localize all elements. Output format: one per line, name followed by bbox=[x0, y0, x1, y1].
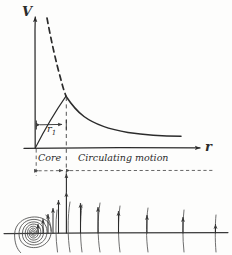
streamline bbox=[68, 202, 70, 252]
core-region-label: Core bbox=[38, 152, 61, 163]
forced-vortex-rising-line bbox=[35, 96, 66, 148]
streamline bbox=[56, 210, 58, 252]
rankine-vortex-figure: V r r1 Core Circulating motion bbox=[0, 0, 232, 255]
free-vortex-decay-curve bbox=[66, 96, 181, 136]
free-vortex-dashed-curve bbox=[47, 18, 66, 96]
core-radius-label: r1 bbox=[47, 123, 56, 137]
y-axis-label: V bbox=[22, 4, 32, 19]
x-axis bbox=[24, 148, 200, 149]
x-axis-label: r bbox=[205, 139, 212, 154]
streamline-group bbox=[56, 202, 216, 252]
circulating-motion-region-label: Circulating motion bbox=[78, 152, 169, 163]
velocity-vector-group bbox=[38, 193, 216, 234]
core-radius-subscript: 1 bbox=[52, 129, 56, 137]
figure-canvas bbox=[0, 0, 232, 255]
streamline bbox=[215, 215, 216, 252]
